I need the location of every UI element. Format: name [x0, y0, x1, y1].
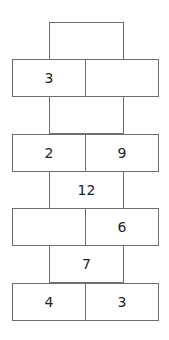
box-row-2-right — [85, 59, 159, 97]
box-row-1 — [49, 22, 124, 60]
box-row-8-right: 3 — [85, 283, 159, 321]
box-row-3 — [49, 96, 124, 134]
box-row-5: 12 — [49, 171, 124, 209]
box-row-6-right: 6 — [85, 208, 159, 246]
box-row-2-left: 3 — [12, 59, 86, 97]
box-row-7: 7 — [49, 245, 124, 283]
box-row-4-left: 2 — [12, 134, 86, 172]
box-row-4-right: 9 — [85, 134, 159, 172]
box-row-8-left: 4 — [12, 283, 86, 321]
box-row-6-left — [12, 208, 86, 246]
